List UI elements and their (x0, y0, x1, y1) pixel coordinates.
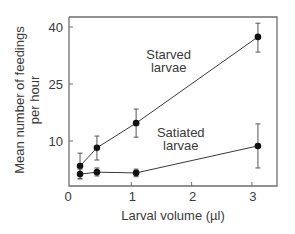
x-tick-label: 2 (189, 189, 196, 204)
series-layer: StarvedlarvaeSatiatedlarvae (77, 23, 261, 179)
y-tick-label: 25 (49, 77, 63, 92)
x-axis-title: Larval volume (µl) (121, 208, 225, 223)
y-axis-title: Mean number of feedingsper hour (12, 26, 42, 174)
series-annotation: Starvedlarvae (146, 47, 191, 75)
x-tick-label: 3 (249, 189, 256, 204)
data-point (77, 163, 84, 170)
x-tick-label: 0 (64, 189, 71, 204)
y-tick-label: 40 (49, 20, 63, 35)
plot-frame (69, 17, 277, 186)
series-annotation: Satiatedlarvae (157, 125, 205, 153)
data-point (77, 171, 84, 178)
data-point (94, 169, 101, 176)
data-point (255, 34, 262, 41)
axes: 1025400123 (49, 17, 277, 204)
data-point (255, 143, 262, 150)
x-tick-label: 1 (129, 189, 136, 204)
data-point (94, 145, 101, 152)
data-point (133, 170, 140, 177)
series-satiated-larvae: Satiatedlarvae (77, 124, 261, 179)
series-starved-larvae: Starvedlarvae (77, 23, 261, 178)
feeding-rate-chart: 1025400123 StarvedlarvaeSatiatedlarvae L… (0, 0, 295, 234)
data-point (133, 120, 140, 127)
y-tick-label: 10 (49, 134, 63, 149)
